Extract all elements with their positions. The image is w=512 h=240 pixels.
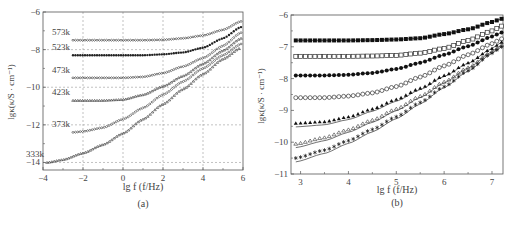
circle-marker bbox=[471, 51, 475, 55]
triangle-marker bbox=[409, 99, 413, 102]
square-marker bbox=[346, 38, 350, 42]
triangle-marker bbox=[428, 82, 432, 85]
dot-marker bbox=[185, 51, 187, 53]
diamond-marker bbox=[132, 113, 135, 115]
circle-marker bbox=[485, 36, 489, 40]
triangle-marker bbox=[322, 136, 326, 139]
x-tick-label: 6 bbox=[442, 177, 447, 187]
triangle-marker bbox=[132, 96, 135, 98]
square-marker bbox=[471, 26, 475, 30]
square-marker bbox=[433, 34, 437, 38]
square-marker bbox=[437, 33, 441, 37]
triangle-marker bbox=[394, 107, 398, 110]
square-marker bbox=[456, 41, 460, 45]
circle-marker bbox=[428, 58, 432, 62]
circle-marker bbox=[366, 71, 370, 75]
dot-marker bbox=[170, 52, 172, 54]
circle-marker bbox=[351, 94, 355, 98]
panel-b-ylabel: lgκ(κ/S · cm⁻¹) bbox=[256, 68, 266, 124]
square-marker bbox=[332, 54, 336, 58]
triangle-marker bbox=[308, 121, 312, 124]
circle-marker bbox=[332, 73, 336, 77]
square-marker bbox=[385, 38, 389, 42]
triangle-marker bbox=[308, 139, 312, 142]
dot-marker bbox=[105, 54, 107, 56]
circle-marker bbox=[346, 94, 350, 98]
circle-marker bbox=[413, 76, 417, 80]
dot-marker bbox=[192, 49, 194, 51]
triangle-marker bbox=[89, 149, 92, 151]
triangle-marker bbox=[346, 115, 350, 118]
dot-marker bbox=[168, 53, 170, 55]
square-marker bbox=[322, 38, 326, 42]
square-marker bbox=[303, 38, 307, 42]
dot-marker bbox=[74, 54, 76, 56]
circle-marker bbox=[433, 56, 437, 60]
series-label: 573k bbox=[52, 27, 71, 37]
panel-a-caption: (a) bbox=[137, 198, 148, 210]
circle-marker bbox=[452, 50, 456, 54]
circle-marker bbox=[322, 73, 326, 77]
x-tick-label: −2 bbox=[78, 173, 88, 183]
circle-marker bbox=[461, 54, 465, 58]
dot-marker bbox=[125, 54, 127, 56]
square-marker bbox=[447, 45, 451, 49]
diamond-marker bbox=[77, 131, 80, 133]
square-marker bbox=[442, 32, 446, 36]
triangle-marker bbox=[240, 37, 243, 39]
triangle-marker bbox=[476, 56, 480, 59]
square-marker bbox=[495, 27, 499, 31]
diamond-marker bbox=[233, 47, 236, 49]
y-tick-label: −10 bbox=[26, 82, 41, 92]
triangle-marker bbox=[385, 111, 389, 114]
triangle-marker bbox=[238, 47, 241, 49]
circle-marker bbox=[327, 95, 331, 99]
y-tick-label: −8 bbox=[278, 74, 288, 84]
circle-marker bbox=[366, 91, 370, 95]
circle-marker bbox=[409, 79, 413, 83]
fit-line bbox=[296, 47, 502, 162]
triangle-marker bbox=[337, 117, 341, 120]
square-marker bbox=[370, 38, 374, 42]
square-marker bbox=[308, 38, 312, 42]
triangle-marker bbox=[171, 97, 174, 99]
triangle-marker bbox=[299, 121, 303, 124]
square-marker bbox=[418, 36, 422, 40]
square-marker bbox=[327, 54, 331, 58]
triangle-marker bbox=[187, 85, 190, 87]
circle-marker bbox=[351, 73, 355, 77]
x-tick-label: 4 bbox=[346, 177, 351, 187]
circle-marker bbox=[442, 64, 446, 68]
circle-marker bbox=[452, 60, 456, 64]
triangle-marker bbox=[195, 78, 198, 80]
triangle-marker bbox=[84, 99, 87, 101]
square-marker bbox=[322, 54, 326, 58]
diamond-marker bbox=[213, 50, 216, 52]
diamond-marker bbox=[230, 39, 233, 41]
triangle-marker bbox=[394, 97, 398, 100]
dot-marker bbox=[132, 54, 134, 56]
dot-marker bbox=[129, 54, 131, 56]
circle-marker bbox=[404, 81, 408, 85]
circle-marker bbox=[299, 96, 303, 100]
square-marker bbox=[385, 54, 389, 58]
diamond-marker bbox=[197, 59, 200, 61]
diamond-marker bbox=[192, 74, 195, 76]
square-marker bbox=[380, 54, 384, 58]
y-tick-label: −10 bbox=[274, 137, 289, 147]
dot-marker bbox=[211, 42, 213, 44]
dot-marker bbox=[180, 51, 182, 53]
triangle-marker bbox=[433, 78, 437, 81]
diamond-marker bbox=[233, 24, 236, 26]
triangle-marker bbox=[91, 99, 94, 101]
square-marker bbox=[303, 54, 307, 58]
diamond-marker bbox=[240, 32, 243, 34]
diamond-marker bbox=[228, 51, 231, 53]
dot-marker bbox=[79, 54, 81, 56]
dot-marker bbox=[218, 38, 220, 40]
triangle-marker bbox=[147, 115, 150, 117]
circle-marker bbox=[423, 60, 427, 64]
diamond-marker bbox=[235, 34, 238, 36]
circle-marker bbox=[500, 30, 504, 34]
circle-marker bbox=[433, 68, 437, 72]
